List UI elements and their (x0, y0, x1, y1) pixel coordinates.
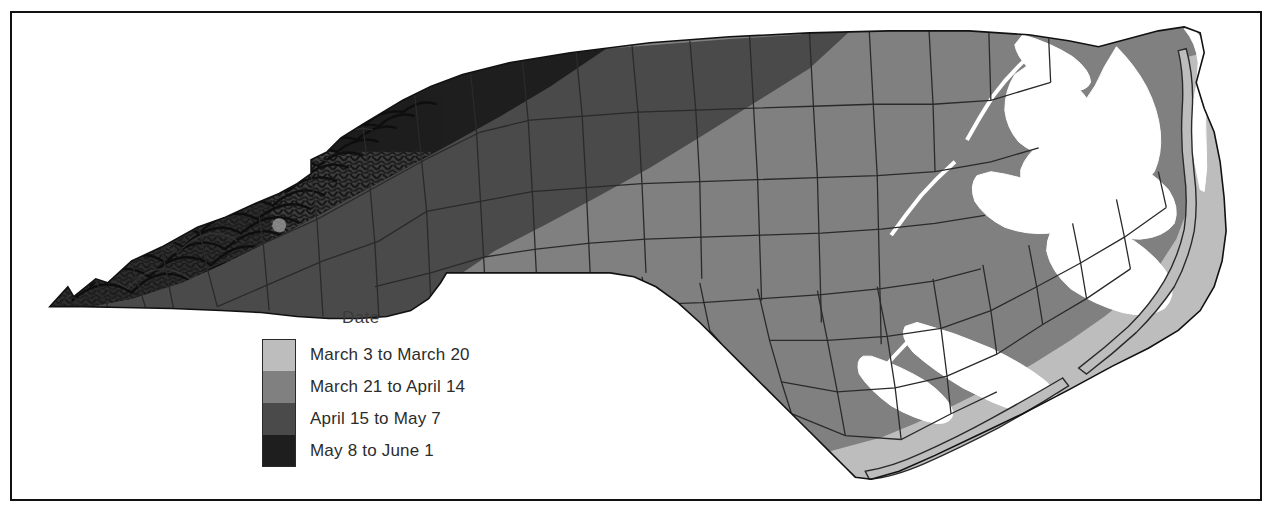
map-layers (12, 13, 1260, 499)
legend-swatch-march3-march20 (262, 339, 296, 371)
legend-label: March 21 to April 14 (310, 377, 465, 397)
north-carolina-map[interactable] (12, 13, 1260, 499)
map-frame: Date March 3 to March 20 March 21 to Apr… (10, 11, 1262, 501)
map-legend: Date March 3 to March 20 March 21 to Apr… (262, 308, 522, 467)
legend-label: April 15 to May 7 (310, 409, 441, 429)
legend-label: March 3 to March 20 (310, 345, 470, 365)
legend-label: May 8 to June 1 (310, 441, 434, 461)
legend-title: Date (262, 308, 522, 328)
legend-swatch-may8-june1 (262, 435, 296, 467)
legend-item[interactable]: March 21 to April 14 (262, 371, 522, 403)
legend-item[interactable]: April 15 to May 7 (262, 403, 522, 435)
legend-item[interactable]: May 8 to June 1 (262, 435, 522, 467)
legend-swatch-march21-april14 (262, 371, 296, 403)
legend-items: March 3 to March 20 March 21 to April 14… (262, 339, 522, 467)
legend-item[interactable]: March 3 to March 20 (262, 339, 522, 371)
figure-page: Date March 3 to March 20 March 21 to Apr… (0, 0, 1274, 526)
legend-swatch-april15-may7 (262, 403, 296, 435)
